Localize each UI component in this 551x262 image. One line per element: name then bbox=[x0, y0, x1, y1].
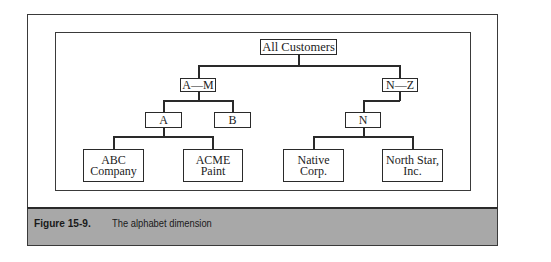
caption-band: Figure 15-9. The alphabet dimension bbox=[27, 207, 498, 246]
node-n-z: N—Z bbox=[382, 78, 418, 92]
node-label: B bbox=[228, 115, 236, 126]
connector bbox=[212, 136, 214, 149]
connector bbox=[198, 65, 400, 67]
figure-label: Figure 15-9. bbox=[34, 217, 91, 229]
node-n: N bbox=[345, 112, 381, 128]
connector bbox=[163, 100, 165, 112]
node-abc-company: ABC Company bbox=[83, 149, 144, 182]
node-north-star-inc: North Star, Inc. bbox=[382, 149, 443, 182]
node-b: B bbox=[214, 112, 251, 128]
connector bbox=[412, 136, 414, 149]
connector bbox=[399, 65, 401, 78]
node-native-corp: Native Corp. bbox=[283, 149, 344, 182]
connector bbox=[113, 136, 213, 138]
connector bbox=[363, 100, 400, 102]
node-a: A bbox=[145, 112, 182, 128]
node-label: A bbox=[159, 115, 168, 126]
connector bbox=[313, 136, 315, 149]
node-acme-paint: ACME Paint bbox=[183, 149, 243, 182]
figure-caption: The alphabet dimension bbox=[112, 217, 212, 229]
node-label-line2: Inc. bbox=[403, 166, 421, 177]
node-all-customers: All Customers bbox=[260, 39, 337, 55]
node-label: All Customers bbox=[262, 42, 335, 53]
node-label: A—M bbox=[182, 80, 213, 91]
connector bbox=[363, 100, 365, 112]
node-label: N—Z bbox=[386, 80, 414, 91]
connector bbox=[232, 100, 234, 112]
node-label-line2: Corp. bbox=[300, 166, 327, 177]
connector bbox=[163, 100, 233, 102]
connector bbox=[313, 136, 413, 138]
node-label-line2: Paint bbox=[201, 166, 226, 177]
connector bbox=[198, 65, 200, 78]
node-a-m: A—M bbox=[180, 78, 216, 92]
connector bbox=[113, 136, 115, 149]
node-label-line2: Company bbox=[90, 166, 137, 177]
node-label: N bbox=[359, 115, 368, 126]
